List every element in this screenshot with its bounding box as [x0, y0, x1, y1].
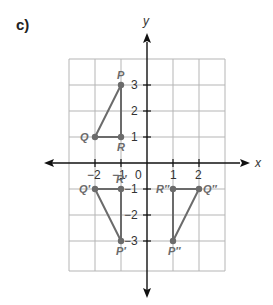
label-r: R: [117, 141, 125, 153]
point-r-double-prime: [170, 186, 176, 192]
x-tick-label: 1: [170, 168, 177, 182]
point-q: [92, 134, 98, 140]
point-p: [118, 82, 124, 88]
label-p-prime: P′: [116, 245, 127, 257]
y-axis-label: y: [142, 14, 150, 28]
y-tick-label: 2: [131, 104, 138, 118]
y-tick-label: −3: [124, 234, 138, 248]
y-tick-label: 3: [131, 78, 138, 92]
x-tick-label: 2: [195, 168, 202, 182]
y-tick-label: −2: [124, 208, 138, 222]
point-p-double-prime: [170, 238, 176, 244]
x-axis-right-arrow-icon: [240, 159, 250, 167]
label-r-prime: R′: [116, 173, 128, 185]
label-q: Q: [80, 131, 89, 143]
y-axis-up-arrow-icon: [143, 33, 151, 43]
label-q-prime: Q′: [79, 183, 92, 195]
x-axis-label: x: [254, 156, 262, 170]
y-axis: [143, 33, 151, 298]
label-q-double-prime: Q″: [203, 183, 218, 195]
point-r-prime: [118, 186, 124, 192]
point-q-double-prime: [196, 186, 202, 192]
label-r-double-prime: R″: [156, 183, 170, 195]
x-tick-label: 0: [135, 168, 142, 182]
coordinate-plane: x y −2 −1 0 1 2 3 2 1 −1 −2 −3 P Q R: [0, 0, 273, 305]
point-q-prime: [92, 186, 98, 192]
label-p-double-prime: P″: [168, 245, 181, 257]
point-r: [118, 134, 124, 140]
point-p-prime: [118, 238, 124, 244]
x-tick-label: −2: [87, 168, 101, 182]
y-tick-label: 1: [131, 130, 138, 144]
label-p: P: [117, 69, 125, 81]
